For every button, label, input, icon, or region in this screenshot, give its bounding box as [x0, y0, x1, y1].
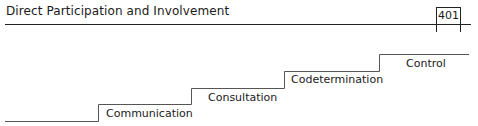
step-label-consultation: Consultation [208, 91, 277, 104]
step-label-communication: Communication [106, 107, 193, 120]
step-label-control: Control [406, 57, 446, 70]
step-label-codetermination: Codetermination [291, 73, 383, 86]
